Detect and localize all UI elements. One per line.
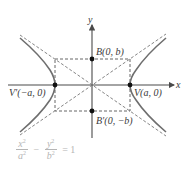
- covertex-top-point: [90, 57, 95, 62]
- vertex-right-point: [128, 83, 133, 88]
- equals-one: = 1: [59, 144, 78, 155]
- hyperbola-equation: x2 a2 − y2 b2 = 1: [16, 138, 78, 162]
- covertex-bottom-label: B′(0, −b): [96, 116, 133, 126]
- vertex-left-point: [53, 83, 58, 88]
- minus-sign: −: [31, 144, 43, 155]
- covertex-top-label: B(0, b): [96, 47, 124, 57]
- x-axis-label: x: [176, 80, 180, 90]
- y-fraction: y2 b2: [45, 138, 57, 162]
- vertex-right-label: V(a, 0): [134, 88, 162, 98]
- covertex-bottom-point: [90, 109, 95, 114]
- y-axis-label: y: [88, 15, 92, 25]
- vertex-left-label: V′(−a, 0): [9, 88, 46, 98]
- x-fraction: x2 a2: [16, 138, 28, 162]
